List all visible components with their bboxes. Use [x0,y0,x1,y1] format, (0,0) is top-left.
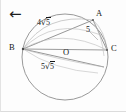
construction-arc-BD-lower [23,49,98,73]
vertex-dot-C [106,49,108,51]
vertex-dot-A [92,19,94,21]
length-label-BD-radicand: 5 [50,61,55,71]
point-label-B: B [9,42,15,52]
circle-outline [22,14,108,100]
diagram-screen: ← A B C O 4√5 5 [0,0,126,112]
length-label-AC: 5 [86,25,90,34]
vertex-dot-B [22,48,24,50]
point-label-O: O [63,47,69,57]
point-label-A: A [96,8,102,18]
point-label-C: C [111,43,117,53]
segment-BA [23,20,93,49]
length-label-BA-radicand: 5 [46,17,51,27]
length-label-BA: 4√5 [37,18,51,27]
length-label-BD: 5√5 [41,62,55,71]
